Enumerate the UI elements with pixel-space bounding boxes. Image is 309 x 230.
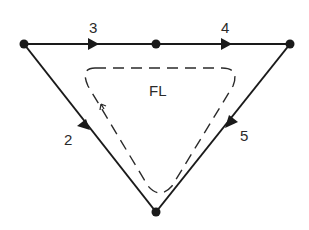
diagram-canvas: 3 4 2 5 FL [0, 0, 309, 230]
edge-4-label: 4 [221, 19, 229, 36]
loop-label: FL [149, 82, 167, 99]
diagram-svg: 3 4 2 5 FL [0, 0, 309, 230]
edge-5-label: 5 [240, 127, 248, 144]
edge-3-arrow-icon [88, 38, 99, 50]
edge-4-arrow-icon [221, 38, 232, 50]
edge-2-label: 2 [64, 131, 72, 148]
edge-5-line [156, 44, 290, 212]
edge-3-label: 3 [89, 19, 97, 36]
node-bottom [152, 208, 161, 217]
loop-direction-arrow-icon [100, 104, 106, 110]
node-top-mid [152, 40, 161, 49]
node-right [286, 40, 295, 49]
node-left [20, 40, 29, 49]
